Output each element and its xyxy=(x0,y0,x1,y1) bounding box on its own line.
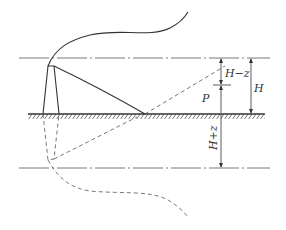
image-plume-dashed xyxy=(48,160,188,217)
label-h-minus-z: H−z xyxy=(224,67,250,80)
image-chimney-dashed xyxy=(43,114,59,160)
label-h: H xyxy=(253,82,264,95)
ground-hatching xyxy=(28,114,265,119)
diagram-canvas: H−z P H H+z xyxy=(0,0,286,230)
chimney xyxy=(43,66,59,114)
label-h-plus-z: H+z xyxy=(207,125,220,151)
direct-ray xyxy=(54,66,145,114)
label-p: P xyxy=(201,92,210,105)
image-ray-dashed xyxy=(54,117,137,159)
reflected-ray-dashed xyxy=(145,66,225,114)
